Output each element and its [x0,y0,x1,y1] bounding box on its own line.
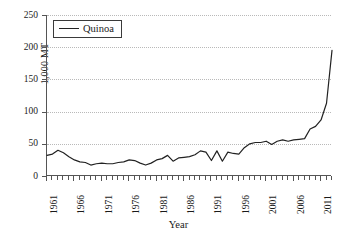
x-tick-minor [205,176,206,180]
y-tick-label-150: 150 [24,75,38,85]
x-tick-minor [57,176,58,180]
x-tick-major [101,176,102,181]
x-tick-minor [106,176,107,180]
x-tick-minor [134,176,135,180]
x-tick-minor [309,176,310,180]
x-tick-minor [221,176,222,180]
x-tick-minor [112,176,113,180]
x-tick-minor [276,176,277,180]
x-tick-label-1986: 1986 [187,195,197,214]
x-tick-minor [189,176,190,180]
x-tick-minor [271,176,272,180]
x-tick-minor [90,176,91,180]
x-tick-minor [216,176,217,180]
figure-caption [0,240,357,248]
x-tick-major [293,176,294,181]
x-tick-major [320,176,321,181]
x-tick-minor [260,176,261,180]
x-tick-minor [194,176,195,180]
x-tick-label-1981: 1981 [160,195,170,214]
x-tick-minor [254,176,255,180]
x-tick-label-1991: 1991 [214,195,224,214]
x-axis-ticks [46,176,331,181]
legend-label-quinoa: Quinoa [83,23,114,34]
x-tick-major [210,176,211,181]
x-tick-minor [62,176,63,180]
x-tick-label-2001: 2001 [269,195,279,214]
chart-legend: Quinoa [53,20,122,38]
x-axis-title: Year [0,219,357,230]
x-tick-major [73,176,74,181]
y-tick-label-0: 0 [33,172,38,182]
x-tick-major [46,176,47,181]
x-tick-minor [68,176,69,180]
x-tick-minor [249,176,250,180]
x-tick-minor [298,176,299,180]
x-tick-minor [243,176,244,180]
legend-line-swatch-icon [59,28,79,29]
y-axis: 250 200 150 100 50 0 [0,0,44,191]
x-tick-minor [84,176,85,180]
y-tick-label-200: 200 [24,43,38,53]
quinoa-production-figure: 250 200 150 100 50 0 1,000 MT 1961196619… [0,0,357,248]
x-tick-minor [95,176,96,180]
x-tick-minor [326,176,327,180]
x-tick-minor [51,176,52,180]
x-tick-major [183,176,184,181]
x-tick-label-1996: 1996 [242,195,252,214]
x-tick-label-1971: 1971 [105,195,115,214]
x-tick-minor [287,176,288,180]
x-tick-minor [145,176,146,180]
y-tick-label-50: 50 [29,139,39,149]
x-tick-minor [315,176,316,180]
x-tick-minor [282,176,283,180]
x-tick-major [156,176,157,181]
x-tick-minor [117,176,118,180]
x-tick-minor [304,176,305,180]
x-tick-label-1966: 1966 [77,195,87,214]
x-axis-labels: 1961196619711976198119861991199620012006… [46,182,331,216]
y-tick-label-250: 250 [24,11,38,21]
y-tick-label-100: 100 [24,107,38,117]
x-tick-label-1976: 1976 [132,195,142,214]
plot-area [46,15,331,176]
quinoa-line-series [47,15,332,176]
x-tick-minor [161,176,162,180]
x-tick-minor [167,176,168,180]
x-tick-minor [227,176,228,180]
x-tick-minor [178,176,179,180]
x-tick-minor [232,176,233,180]
x-tick-minor [172,176,173,180]
x-tick-minor [123,176,124,180]
x-tick-minor [150,176,151,180]
x-tick-minor [331,176,332,180]
x-tick-major [265,176,266,181]
x-tick-major [128,176,129,181]
x-tick-major [238,176,239,181]
x-tick-minor [79,176,80,180]
x-tick-label-2011: 2011 [324,195,334,214]
x-tick-label-2006: 2006 [297,195,307,214]
x-tick-minor [199,176,200,180]
x-tick-minor [139,176,140,180]
x-tick-label-1961: 1961 [50,195,60,214]
